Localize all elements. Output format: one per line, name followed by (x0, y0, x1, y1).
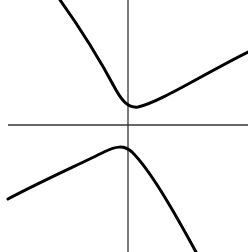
graph-canvas (0, 0, 248, 252)
hyperbola-figure (0, 0, 248, 252)
lower-branch-curve (8, 147, 196, 252)
upper-branch-curve (60, 0, 248, 107)
